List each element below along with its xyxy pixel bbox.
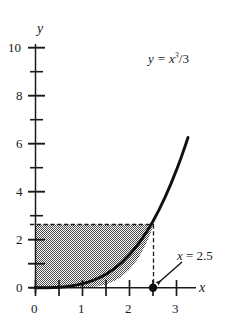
x-axis-label: x — [199, 281, 205, 295]
marked-point-label-value: = 2.5 — [183, 248, 213, 263]
x-tick-label-3: 3 — [172, 302, 179, 315]
y-axis-label: y — [37, 22, 43, 36]
annotation-arrow — [158, 262, 183, 284]
marked-point-label: x = 2.5 — [177, 249, 213, 262]
y-tick-label-4: 4 — [16, 185, 23, 198]
y-tick-label-6: 6 — [16, 137, 23, 150]
x-tick-label-1: 1 — [78, 302, 85, 315]
x-tick-label-0: 0 — [31, 302, 38, 315]
y-tick-label-8: 8 — [16, 89, 23, 102]
y-tick-label-10: 10 — [8, 41, 21, 54]
y-tick-label-2: 2 — [16, 233, 23, 246]
marked-point-dot — [149, 284, 157, 292]
y-tick-label-0: 0 — [16, 281, 23, 294]
x-tick-label-2: 2 — [125, 302, 132, 315]
curve-equation-label: y = x3/3 — [148, 52, 189, 65]
plot-svg — [0, 0, 230, 330]
figure-canvas: y x 10 8 6 4 2 0 0 1 2 3 y = x3/3 x = 2.… — [0, 0, 230, 330]
curve-equation-suffix: /3 — [179, 51, 189, 66]
curve-equation-prefix: y = x — [148, 51, 175, 66]
